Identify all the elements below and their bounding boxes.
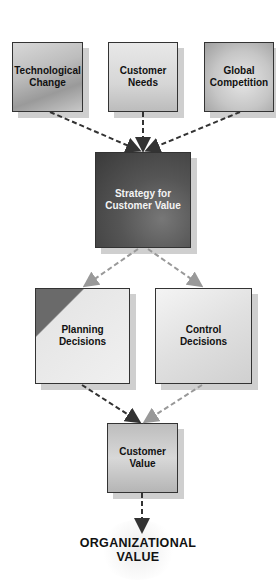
arrow-strategy-to-planning <box>86 249 138 285</box>
arrow-global-to-strategy <box>148 112 240 150</box>
label: Customer Value <box>105 200 181 211</box>
arrow-control-to-customer-value <box>146 385 202 421</box>
label: Decisions <box>59 336 106 347</box>
label: Competition <box>210 77 268 88</box>
label: Strategy for <box>115 188 171 199</box>
arrow-strategy-to-control <box>148 249 200 285</box>
label: Needs <box>128 77 158 88</box>
label: Customer <box>119 446 166 457</box>
arrow-tech-to-strategy <box>50 112 138 150</box>
label: Control <box>186 324 222 335</box>
label: Value <box>129 458 155 469</box>
label: Global <box>223 65 254 76</box>
label: Technological <box>14 65 81 76</box>
label: Change <box>29 77 66 88</box>
label: Planning <box>61 324 103 335</box>
label: Decisions <box>180 336 227 347</box>
label: Customer <box>120 65 167 76</box>
arrow-planning-to-customer-value <box>82 385 138 421</box>
